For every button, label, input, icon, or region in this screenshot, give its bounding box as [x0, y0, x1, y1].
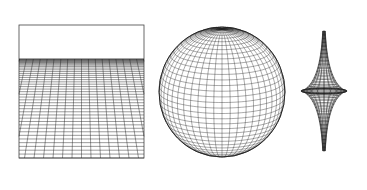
- plane-panel: [19, 25, 144, 158]
- sphere-panel: [159, 27, 285, 157]
- pseudosphere-panel: [301, 31, 347, 151]
